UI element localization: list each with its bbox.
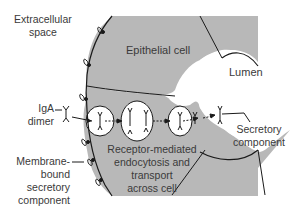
membrane-bound-line-1: Membrane- <box>4 155 70 168</box>
membrane-bound-line-3: secretory <box>4 181 70 194</box>
membrane-bound-line-4: component <box>4 194 70 207</box>
iga-dimer-icon <box>63 106 69 122</box>
iga-line-1: IgA <box>22 102 54 115</box>
transport-process-label: Receptor-mediated endocytosis and transp… <box>102 143 202 195</box>
lumen-label: Lumen <box>229 66 263 79</box>
transport-line-4: across cell <box>102 182 202 195</box>
transport-vesicle-middle <box>121 101 153 141</box>
membrane-bound-secretory-component-label: Membrane- bound secretory component <box>4 155 70 207</box>
extracellular-space-label: Extracellular space <box>14 13 72 39</box>
epithelial-cell-label: Epithelial cell <box>126 44 190 57</box>
membrane-bound-line-2: bound <box>4 168 70 181</box>
extracellular-line-2: space <box>14 26 72 39</box>
secretory-component-label: Secretory component <box>228 123 290 149</box>
iga-dimer-label: IgA dimer <box>22 102 54 128</box>
iga-line-2: dimer <box>22 115 54 128</box>
transport-line-3: transport <box>102 169 202 182</box>
extracellular-line-1: Extracellular <box>14 13 72 26</box>
transport-line-1: Receptor-mediated <box>102 143 202 156</box>
secretory-line-2: component <box>228 136 290 149</box>
secretory-line-1: Secretory <box>228 123 290 136</box>
transport-line-2: endocytosis and <box>102 156 202 169</box>
